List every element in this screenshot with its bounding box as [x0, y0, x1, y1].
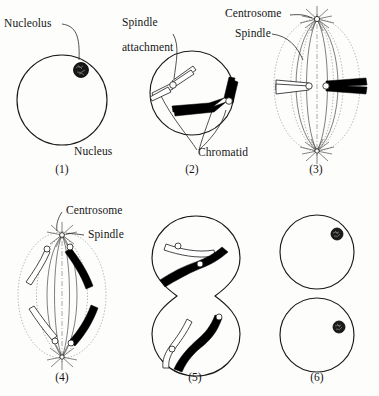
nucleolus-upper-6 [331, 228, 343, 240]
mitosis-figure: Nucleolus Nucleus (1) Spindle [0, 0, 379, 396]
daughter-cell-outline-lower [280, 298, 354, 372]
nucleolus-lower-6 [333, 321, 345, 333]
daughter-cell-outline-upper [280, 215, 354, 289]
panel-6-drawing [0, 0, 379, 396]
panel-number-6: (6) [297, 371, 337, 383]
